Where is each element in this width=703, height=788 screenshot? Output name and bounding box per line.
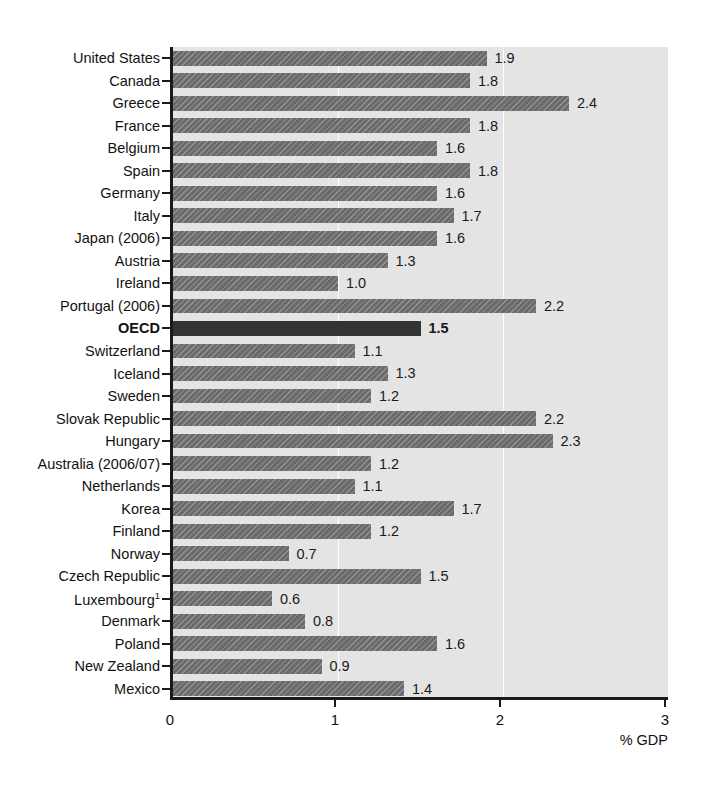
bar-austria <box>173 253 388 268</box>
bar-value-label: 1.4 <box>412 681 432 696</box>
bar-row: 1.6 <box>173 231 668 246</box>
category-label-belgium: Belgium <box>0 141 160 156</box>
category-tick <box>162 463 170 465</box>
bar-value-label: 1.3 <box>396 366 416 381</box>
bar-luxembourg <box>173 591 272 606</box>
axis-title: % GDP <box>0 733 668 748</box>
bar-value-label: 1.5 <box>429 569 449 584</box>
bar-row: 0.9 <box>173 659 668 674</box>
category-axis-labels: United StatesCanadaGreeceFranceBelgiumSp… <box>0 47 160 700</box>
bar-iceland <box>173 366 388 381</box>
bar-row: 1.2 <box>173 524 668 539</box>
category-label-italy: Italy <box>0 209 160 224</box>
bar-row: 1.9 <box>173 51 668 66</box>
bar-value-label: 0.9 <box>330 659 350 674</box>
category-label-australia-2006-07: Australia (2006/07) <box>0 456 160 471</box>
bar-row: 1.1 <box>173 479 668 494</box>
bar-row: 1.6 <box>173 141 668 156</box>
bar-value-label: 0.7 <box>297 546 317 561</box>
bar-oecd <box>173 321 421 336</box>
category-tick <box>162 102 170 104</box>
category-tick <box>162 620 170 622</box>
bar-value-label: 0.6 <box>280 591 300 606</box>
bar-value-label: 1.8 <box>478 74 498 89</box>
category-label-iceland: Iceland <box>0 366 160 381</box>
bar-ireland <box>173 276 338 291</box>
bar-row: 2.2 <box>173 299 668 314</box>
value-tick-2 <box>499 700 501 707</box>
bar-united-states <box>173 51 487 66</box>
category-tick <box>162 282 170 284</box>
category-label-switzerland: Switzerland <box>0 344 160 359</box>
bar-germany <box>173 186 437 201</box>
bar-value-label: 1.1 <box>363 479 383 494</box>
category-tick <box>162 395 170 397</box>
value-tick-label-1: 1 <box>331 712 339 727</box>
category-label-netherlands: Netherlands <box>0 479 160 494</box>
bar-row: 1.0 <box>173 276 668 291</box>
bar-value-label: 1.6 <box>445 231 465 246</box>
category-tick <box>162 688 170 690</box>
category-label-canada: Canada <box>0 74 160 89</box>
category-tick <box>162 508 170 510</box>
category-tick <box>162 170 170 172</box>
category-tick <box>162 215 170 217</box>
category-label-czech-republic: Czech Republic <box>0 569 160 584</box>
bar-value-label: 1.3 <box>396 254 416 269</box>
category-label-portugal-2006: Portugal (2006) <box>0 299 160 314</box>
value-tick-3 <box>664 700 666 707</box>
category-tick <box>162 575 170 577</box>
category-label-spain: Spain <box>0 164 160 179</box>
bar-row: 1.1 <box>173 344 668 359</box>
bar-value-label: 1.8 <box>478 119 498 134</box>
bar-mexico <box>173 681 404 696</box>
category-label-japan-2006: Japan (2006) <box>0 231 160 246</box>
bar-row: 1.2 <box>173 456 668 471</box>
category-label-slovak-republic: Slovak Republic <box>0 411 160 426</box>
category-tick <box>162 643 170 645</box>
value-tick-label-2: 2 <box>496 712 504 727</box>
bar-row: 2.3 <box>173 434 668 449</box>
category-label-sweden: Sweden <box>0 389 160 404</box>
bar-row: 1.3 <box>173 253 668 268</box>
category-label-norway: Norway <box>0 546 160 561</box>
bar-portugal-2006 <box>173 299 536 314</box>
category-tick <box>162 237 170 239</box>
category-tick <box>162 553 170 555</box>
category-label-france: France <box>0 119 160 134</box>
bar-korea <box>173 501 454 516</box>
bar-hungary <box>173 434 553 449</box>
bar-japan-2006 <box>173 231 437 246</box>
bar-netherlands <box>173 479 355 494</box>
bar-new-zealand <box>173 659 322 674</box>
value-tick-label-0: 0 <box>166 712 174 727</box>
bar-value-label: 2.2 <box>544 411 564 426</box>
category-tick <box>162 57 170 59</box>
bar-value-label: 0.8 <box>313 614 333 629</box>
category-label-poland: Poland <box>0 636 160 651</box>
bar-value-label: 2.2 <box>544 299 564 314</box>
bar-value-label: 1.0 <box>346 276 366 291</box>
bar-rows: 1.91.82.41.81.61.81.61.71.61.31.02.21.51… <box>173 47 668 697</box>
bar-poland <box>173 636 437 651</box>
bar-row: 0.7 <box>173 546 668 561</box>
bar-value-label: 1.6 <box>445 636 465 651</box>
bar-row: 1.8 <box>173 163 668 178</box>
category-tick <box>162 147 170 149</box>
category-label-korea: Korea <box>0 501 160 516</box>
plot-area: 1.91.82.41.81.61.81.61.71.61.31.02.21.51… <box>170 47 668 700</box>
bar-italy <box>173 208 454 223</box>
bar-value-label: 1.8 <box>478 164 498 179</box>
bar-value-label: 1.2 <box>379 389 399 404</box>
bar-value-label: 1.7 <box>462 501 482 516</box>
bar-value-label: 1.2 <box>379 524 399 539</box>
bar-row: 2.2 <box>173 411 668 426</box>
bar-row: 1.6 <box>173 186 668 201</box>
value-tick-label-3: 3 <box>661 712 669 727</box>
bar-row: 2.4 <box>173 96 668 111</box>
value-tick-1 <box>334 700 336 707</box>
category-tick <box>162 125 170 127</box>
category-label-united-states: United States <box>0 51 160 66</box>
bar-value-label: 1.1 <box>363 344 383 359</box>
category-label-austria: Austria <box>0 254 160 269</box>
